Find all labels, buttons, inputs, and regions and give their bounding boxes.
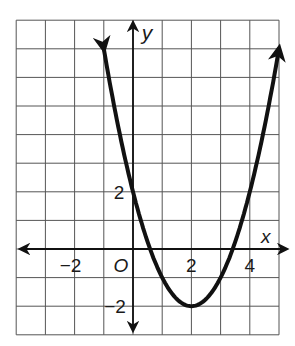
axis-labels: −2242−2Oxy: [60, 21, 272, 317]
x-tick-label: 2: [186, 255, 197, 276]
x-axis-label: x: [260, 226, 272, 247]
x-tick-label: 4: [245, 255, 256, 276]
axes: [20, 22, 287, 331]
y-tick-label: −2: [104, 296, 126, 317]
parabola-graph: −2242−2Oxy: [0, 0, 295, 346]
origin-label: O: [114, 255, 129, 276]
x-tick-label: −2: [60, 255, 82, 276]
y-axis-label: y: [140, 21, 154, 44]
y-tick-label: 2: [114, 182, 125, 203]
grid-lines: [16, 20, 279, 335]
